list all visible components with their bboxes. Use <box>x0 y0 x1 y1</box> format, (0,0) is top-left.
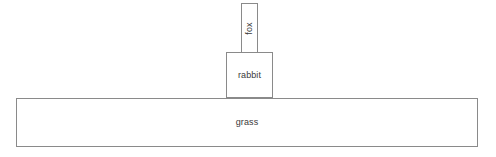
pyramid-level-rabbit-label: rabbit <box>238 71 261 80</box>
pyramid-level-grass: grass <box>16 98 478 147</box>
pyramid-level-fox: fox <box>241 3 258 53</box>
pyramid-level-grass-label: grass <box>236 118 259 127</box>
ecological-pyramid-diagram: fox rabbit grass <box>0 0 496 157</box>
pyramid-level-rabbit: rabbit <box>226 52 273 98</box>
pyramid-level-fox-label: fox <box>245 22 254 34</box>
